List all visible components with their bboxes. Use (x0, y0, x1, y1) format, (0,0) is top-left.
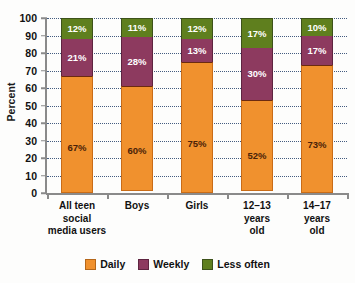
bar-value-label: 12% (187, 24, 206, 34)
y-tick-label-20: 20 (11, 153, 37, 164)
y-tick-40 (41, 122, 47, 124)
y-tick-80 (41, 52, 47, 54)
y-tick-label-60: 60 (11, 83, 37, 94)
y-tick-label-30: 30 (11, 135, 37, 146)
bar-value-label: 10% (307, 23, 326, 33)
bar-segment-less-often[interactable]: 17% (241, 18, 273, 48)
bar-stack[interactable]: 10%17%73% (301, 18, 333, 193)
weekly-swatch (138, 259, 149, 270)
bar-value-label: 67% (67, 143, 86, 153)
bar-segment-daily[interactable]: 75% (181, 62, 213, 193)
bar-value-label: 13% (187, 46, 206, 56)
bar-stack[interactable]: 11%28%60% (121, 18, 153, 193)
y-tick-label-10: 10 (11, 170, 37, 181)
bar-value-label: 17% (247, 29, 266, 39)
plot-area: 12%21%67%11%28%60%12%13%75%17%30%52%10%1… (47, 18, 347, 193)
x-axis-label-line: years (280, 213, 354, 226)
x-tick (347, 193, 349, 199)
less-often-swatch (202, 259, 213, 270)
bar-value-label: 73% (307, 140, 326, 150)
y-tick-90 (41, 35, 47, 37)
y-tick-60 (41, 87, 47, 89)
bar-value-label: 60% (127, 146, 146, 156)
bar-segment-weekly[interactable]: 21% (61, 39, 93, 76)
bar-segment-less-often[interactable]: 12% (61, 18, 93, 39)
legend-item[interactable]: Weekly (138, 258, 189, 270)
y-tick-label-90: 90 (11, 30, 37, 41)
legend-item[interactable]: Less often (202, 258, 270, 270)
bar-segment-daily[interactable]: 52% (241, 100, 273, 191)
bar-stack[interactable]: 12%21%67% (61, 18, 93, 193)
bar-segment-less-often[interactable]: 11% (121, 18, 153, 37)
y-tick-100 (41, 17, 47, 19)
x-tick (47, 193, 49, 199)
bar-value-label: 17% (307, 46, 326, 56)
y-tick-label-50: 50 (11, 100, 37, 111)
legend-label: Daily (100, 258, 125, 270)
y-tick-70 (41, 70, 47, 72)
x-axis-label-line: social (40, 213, 114, 226)
bar-segment-daily[interactable]: 67% (61, 76, 93, 193)
y-tick-label-70: 70 (11, 65, 37, 76)
y-tick-20 (41, 157, 47, 159)
x-tick (107, 193, 109, 199)
daily-swatch (85, 259, 96, 270)
bar-value-label: 21% (67, 53, 86, 63)
x-tick (167, 193, 169, 199)
bar-value-label: 12% (67, 24, 86, 34)
x-axis-label: 14–17yearsold (280, 200, 354, 238)
bar-value-label: 52% (247, 151, 266, 161)
y-tick-30 (41, 140, 47, 142)
y-tick-label-100: 100 (11, 13, 37, 24)
bar-stack[interactable]: 17%30%52% (241, 18, 273, 193)
y-tick-label-40: 40 (11, 118, 37, 129)
chart-legend: DailyWeeklyLess often (0, 258, 355, 270)
bar-value-label: 28% (127, 57, 146, 67)
x-tick (287, 193, 289, 199)
bar-value-label: 75% (187, 139, 206, 149)
stacked-bar-chart: Percent 0102030405060708090100 12%21%67%… (0, 0, 355, 283)
legend-label: Weekly (153, 258, 189, 270)
y-tick-label-0: 0 (11, 188, 37, 199)
x-axis-label-line: media users (40, 225, 114, 238)
bar-stack[interactable]: 12%13%75% (181, 18, 213, 193)
x-axis-label-line: old (280, 225, 354, 238)
bar-segment-less-often[interactable]: 12% (181, 18, 213, 39)
bar-segment-weekly[interactable]: 17% (301, 36, 333, 66)
bar-segment-weekly[interactable]: 30% (241, 48, 273, 101)
x-tick (227, 193, 229, 199)
bar-value-label: 30% (247, 69, 266, 79)
bar-segment-less-often[interactable]: 10% (301, 18, 333, 36)
y-axis-tick-labels: 0102030405060708090100 (9, 18, 37, 193)
x-axis-line (46, 193, 347, 195)
legend-label: Less often (217, 258, 270, 270)
bar-segment-weekly[interactable]: 13% (181, 39, 213, 62)
bar-value-label: 11% (128, 23, 147, 33)
bar-segment-daily[interactable]: 73% (301, 65, 333, 193)
y-tick-10 (41, 175, 47, 177)
legend-item[interactable]: Daily (85, 258, 125, 270)
bar-segment-daily[interactable]: 60% (121, 86, 153, 191)
y-tick-50 (41, 105, 47, 107)
bar-segment-weekly[interactable]: 28% (121, 37, 153, 86)
y-tick-label-80: 80 (11, 48, 37, 59)
x-axis-label-line: 14–17 (280, 200, 354, 213)
